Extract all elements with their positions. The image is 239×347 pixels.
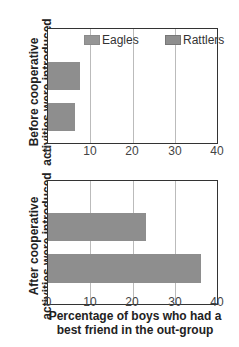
bar-before-rattlers — [48, 103, 75, 131]
eagles-swatch — [84, 35, 100, 45]
bar-after-eagles — [48, 213, 146, 241]
tick-10: 10 — [83, 144, 96, 158]
tick-40: 40 — [210, 144, 223, 158]
x-axis-label-line2: best friend in the out-group — [40, 323, 230, 337]
tick-40: 40 — [210, 295, 223, 309]
bar-before-eagles — [48, 62, 80, 90]
tick-0: 0 — [45, 295, 52, 309]
x-axis-label: Percentage of boys who had a best friend… — [40, 309, 230, 337]
legend-rattlers-label: Rattlers — [183, 33, 224, 47]
tick-10: 10 — [83, 295, 96, 309]
tick-20: 20 — [125, 295, 138, 309]
rattlers-swatch — [165, 35, 181, 45]
legend-eagles: Eagles — [84, 33, 139, 47]
gridline-20 — [133, 181, 134, 304]
tick-20: 20 — [125, 144, 138, 158]
gridline-10 — [90, 181, 91, 304]
panel-after — [47, 180, 218, 305]
bar-after-rattlers — [48, 254, 201, 283]
gridline-30 — [175, 181, 176, 304]
tick-0: 0 — [45, 144, 52, 158]
panel-before: Eagles Rattlers — [47, 28, 218, 144]
tick-30: 30 — [168, 144, 181, 158]
legend-eagles-label: Eagles — [102, 33, 139, 47]
tick-30: 30 — [168, 295, 181, 309]
legend-rattlers: Rattlers — [165, 33, 224, 47]
x-axis-label-line1: Percentage of boys who had a — [40, 309, 230, 323]
